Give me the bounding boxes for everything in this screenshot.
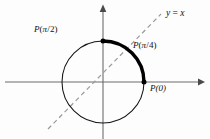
label-p-pi-over-4-close: ) bbox=[153, 40, 156, 50]
label-p-pi-over-2-close: ) bbox=[54, 24, 57, 34]
label-line-equation: y = x bbox=[166, 9, 185, 19]
label-p-zero: P(0) bbox=[150, 84, 166, 93]
label-p-pi-over-4: P(π/4) bbox=[133, 41, 156, 50]
label-line-equation-eq: = bbox=[173, 8, 178, 18]
unit-circle-figure: P(π/2) P(π/4) P(0) y = x bbox=[0, 0, 210, 139]
point-p-0 bbox=[142, 80, 147, 85]
label-p-pi-over-2: P(π/2) bbox=[34, 25, 57, 34]
figure-canvas bbox=[0, 0, 210, 139]
point-p-pi-over-2 bbox=[101, 39, 106, 44]
label-line-equation-lhs: y bbox=[166, 8, 170, 18]
label-p-zero-text: P(0) bbox=[150, 83, 166, 93]
label-line-equation-rhs: x bbox=[180, 8, 184, 18]
y-axis-arrowhead bbox=[100, 5, 107, 13]
x-axis-arrowhead bbox=[198, 79, 205, 86]
